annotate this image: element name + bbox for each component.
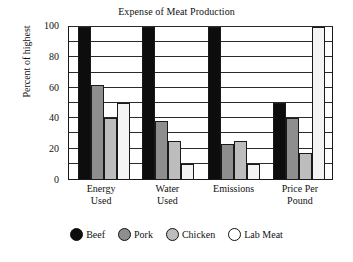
x-label-line: Used xyxy=(134,195,200,207)
bar-beef xyxy=(142,27,155,179)
legend-swatch-circle-icon xyxy=(70,228,83,241)
bar-group xyxy=(201,27,267,179)
x-axis-category-label: EnergyUsed xyxy=(68,183,134,207)
bar-beef xyxy=(208,27,221,179)
y-axis-tick-label: 100 xyxy=(44,21,59,31)
legend-item-lab-meat[interactable]: Lab Meat xyxy=(228,228,283,241)
x-axis-category-label: Price PerPound xyxy=(267,183,333,207)
legend-swatch-circle-icon xyxy=(166,228,179,241)
x-label-line: Price Per xyxy=(267,183,333,195)
legend-item-chicken[interactable]: Chicken xyxy=(166,228,215,241)
bar-groups xyxy=(69,27,332,179)
legend-swatch-circle-icon xyxy=(228,228,241,241)
legend-label: Chicken xyxy=(182,229,215,240)
y-axis-tick-label: 20 xyxy=(49,144,59,154)
bar-pork xyxy=(286,118,299,179)
x-label-line: Pound xyxy=(267,195,333,207)
bar-chart: Expense of Meat Production Percent of hi… xyxy=(0,0,353,262)
chart-legend: BeefPorkChickenLab Meat xyxy=(0,228,353,241)
y-axis-tick-label: 40 xyxy=(49,113,59,123)
x-axis-category-label: Emissions xyxy=(201,183,267,207)
legend-label: Beef xyxy=(86,229,105,240)
bar-chicken xyxy=(168,141,181,179)
chart-title: Expense of Meat Production xyxy=(0,6,353,17)
bar-chicken xyxy=(234,141,247,179)
bar-pork xyxy=(91,85,104,179)
bar-lab-meat xyxy=(117,103,130,179)
x-axis-category-labels: EnergyUsedWaterUsedEmissionsPrice PerPou… xyxy=(68,183,333,207)
bar-lab-meat xyxy=(312,27,325,179)
bar-beef xyxy=(273,103,286,179)
bar-lab-meat xyxy=(247,164,260,179)
legend-item-beef[interactable]: Beef xyxy=(70,228,105,241)
y-axis-tick-label: 0 xyxy=(54,175,59,185)
y-axis-tick-label: 60 xyxy=(49,83,59,93)
x-label-line: Energy xyxy=(68,183,134,195)
bar-group xyxy=(135,27,201,179)
legend-swatch-circle-icon xyxy=(118,228,131,241)
bar-group xyxy=(69,27,135,179)
bar-chicken xyxy=(104,118,117,179)
plot-area xyxy=(68,26,333,180)
x-label-line: Water xyxy=(134,183,200,195)
legend-label: Lab Meat xyxy=(244,229,283,240)
bar-lab-meat xyxy=(181,164,194,179)
bar-group xyxy=(266,27,332,179)
y-axis-tick-labels: 020406080100 xyxy=(0,26,64,180)
y-axis-tick-label: 80 xyxy=(49,52,59,62)
bar-chicken xyxy=(299,153,312,179)
bar-pork xyxy=(155,121,168,179)
x-label-line: Emissions xyxy=(201,183,267,195)
x-axis-category-label: WaterUsed xyxy=(134,183,200,207)
legend-label: Pork xyxy=(134,229,153,240)
bar-beef xyxy=(78,27,91,179)
bar-pork xyxy=(221,144,234,179)
x-label-line: Used xyxy=(68,195,134,207)
legend-item-pork[interactable]: Pork xyxy=(118,228,153,241)
